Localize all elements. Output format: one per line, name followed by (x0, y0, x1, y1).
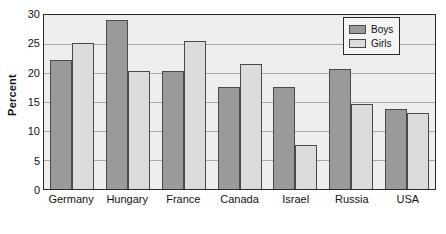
x-axis-tick-label: Germany (43, 193, 99, 213)
bar-chart: Percent 051015202530 GermanyHungaryFranc… (0, 0, 446, 234)
bar-israel-boys (273, 87, 295, 190)
bar-group (44, 15, 100, 189)
bar-hungary-girls (128, 71, 150, 189)
y-axis-tick-label: 15 (28, 96, 40, 108)
y-axis-tick-label: 5 (34, 155, 40, 167)
x-axis-tick-label: Canada (211, 193, 267, 213)
bar-france-boys (162, 71, 184, 189)
bar-germany-boys (50, 60, 72, 189)
bar-group (267, 15, 323, 189)
bar-israel-girls (295, 145, 317, 189)
legend-entry-boys: Boys (349, 22, 393, 36)
bar-france-girls (184, 41, 206, 189)
bar-group (212, 15, 268, 189)
bar-usa-girls (407, 113, 429, 189)
bar-canada-boys (218, 87, 240, 189)
legend-swatch-icon (349, 39, 366, 48)
x-axis-tick-label: France (155, 193, 211, 213)
bar-group (156, 15, 212, 189)
legend-label: Boys (371, 24, 393, 35)
x-axis-category-labels: GermanyHungaryFranceCanadaIsraelRussiaUS… (43, 193, 436, 213)
bar-group (100, 15, 156, 189)
x-axis-tick-label: Hungary (99, 193, 155, 213)
y-axis-tick-label: 0 (34, 184, 40, 196)
bar-hungary-boys (106, 20, 128, 189)
y-axis-tick-label: 20 (28, 67, 40, 79)
y-axis-tick-label: 10 (28, 125, 40, 137)
legend-label: Girls (371, 38, 392, 49)
bar-germany-girls (72, 43, 94, 189)
bar-russia-girls (351, 104, 373, 189)
bar-canada-girls (240, 64, 262, 189)
y-axis-tick-label: 25 (28, 37, 40, 49)
bar-russia-boys (329, 69, 351, 189)
bar-usa-boys (385, 109, 407, 189)
legend-swatch-icon (349, 25, 366, 34)
y-axis-title-text: Percent (6, 74, 18, 116)
chart-legend: BoysGirls (343, 17, 400, 55)
legend-entry-girls: Girls (349, 36, 393, 50)
y-axis-tick-label: 30 (28, 8, 40, 20)
x-axis-tick-label: USA (380, 193, 436, 213)
y-axis-tick-labels: 051015202530 (18, 14, 40, 190)
x-axis-tick-label: Russia (324, 193, 380, 213)
x-axis-tick-label: Israel (268, 193, 324, 213)
